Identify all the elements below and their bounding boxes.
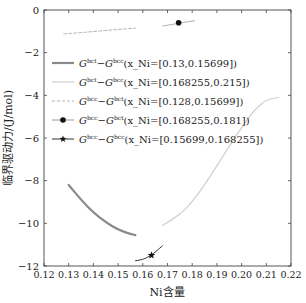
x-axis-label: Ni含量: [149, 285, 184, 299]
x-tick-label: 0.21: [256, 269, 277, 280]
x-tick-label: 0.18: [182, 269, 203, 280]
series-line-3: [64, 28, 136, 34]
chart: 0.120.130.140.150.160.170.180.190.200.21…: [0, 0, 306, 303]
legend-label: Gbcc−Gbct(x_Ni=[0.168255,0.181]): [79, 114, 250, 127]
y-tick-label: −12: [18, 261, 39, 272]
x-tick-label: 0.14: [83, 269, 104, 280]
legend-circle-icon: [60, 117, 66, 123]
legend-label: Gbcc−Gbcc(x_Ni=[0.15699,0.168255]): [79, 133, 263, 146]
legend: Gbct−Gbcc(x_Ni=[0.13,0.15699])Gbct−Gbcc(…: [52, 57, 263, 146]
series-line-5: [135, 246, 162, 261]
legend-label: Gbct−Gbcc(x_Ni=[0.168255,0.215]): [79, 76, 250, 89]
circle-marker: [176, 20, 182, 26]
x-tick-label: 0.17: [157, 269, 178, 280]
series-line-1: [69, 185, 136, 235]
x-tick-label: 0.19: [206, 269, 227, 280]
x-tick-label: 0.16: [132, 269, 153, 280]
x-tick-label: 0.13: [58, 269, 79, 280]
legend-star-icon: [60, 135, 67, 142]
y-tick-label: −2: [24, 47, 39, 58]
y-tick-label: −10: [18, 218, 39, 229]
legend-label: Gbcc−Gbct(x_Ni=[0.128,0.15699]): [79, 95, 243, 108]
y-tick-label: −4: [24, 90, 39, 101]
x-tick-label: 0.20: [231, 269, 252, 280]
x-tick-label: 0.22: [280, 269, 301, 280]
y-tick-label: −6: [24, 133, 39, 144]
y-axis-label: 临界驱动力/(J/mol): [1, 90, 15, 186]
legend-label: Gbct−Gbcc(x_Ni=[0.13,0.15699]): [79, 57, 237, 70]
x-tick-label: 0.15: [108, 269, 129, 280]
y-tick-label: −8: [24, 175, 39, 186]
y-tick-label: 0: [33, 5, 39, 16]
